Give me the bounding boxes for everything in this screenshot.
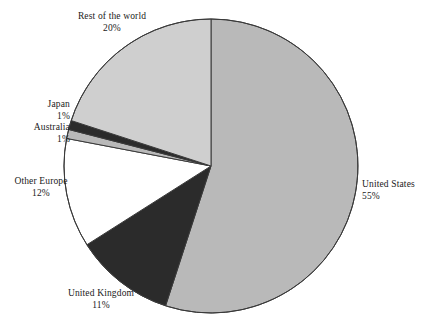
slice-label-value: 11%: [45, 300, 157, 312]
slice-label-name: Australia: [2, 122, 70, 134]
slice-label-name: Rest of the world: [51, 11, 173, 23]
slice-label-rest-of-the-world: Rest of the world 20%: [51, 11, 173, 34]
slice-label-value: 12%: [2, 188, 80, 200]
slice-label-value: 1%: [8, 111, 70, 123]
slice-label-name: United Kingdom: [45, 288, 157, 300]
pie-slices-group: [64, 19, 358, 313]
slice-label-japan: Japan 1%: [8, 99, 70, 122]
slice-label-other-europe: Other Europe 12%: [2, 176, 80, 199]
pie-chart: Rest of the world 20% Japan 1% Australia…: [0, 0, 421, 323]
slice-label-name: Other Europe: [2, 176, 80, 188]
slice-label-united-kingdom: United Kingdom 11%: [45, 288, 157, 311]
pie-chart-canvas: [0, 0, 421, 323]
slice-label-australia: Australia 1%: [2, 122, 70, 145]
slice-label-name: United States: [362, 179, 421, 191]
slice-label-value: 55%: [362, 191, 421, 203]
slice-label-united-states: United States 55%: [362, 179, 421, 202]
slice-label-name: Japan: [8, 99, 70, 111]
slice-label-value: 1%: [2, 134, 70, 146]
slice-label-value: 20%: [51, 23, 173, 35]
